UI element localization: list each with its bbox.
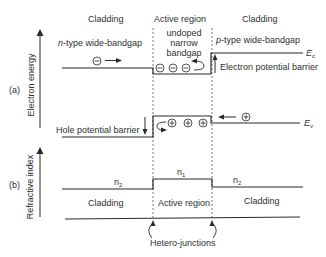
hole-barrier-label: Hole potential barrier: [56, 125, 140, 135]
electron-barrier-label: Electron potential barrier: [220, 62, 318, 72]
ec-label: Ec: [306, 48, 315, 61]
p-type-label: p-type wide-bandgap: [216, 35, 300, 45]
refractive-index-axis: [37, 147, 44, 217]
heterojunction-arrows: [149, 220, 217, 238]
holes-in-well: [157, 119, 207, 133]
hole-barrier-arrow-icon: [143, 117, 148, 135]
region-label-active: Active region: [154, 14, 206, 24]
electron-barrier-arrow-icon: [213, 54, 218, 73]
n1-label: n1: [177, 167, 185, 180]
undoped-narrow-bandgap-label: undoped narrow bandgap: [156, 28, 212, 58]
region-label-left-cladding: Cladding: [88, 14, 124, 24]
panel-a-label: (a): [9, 85, 20, 95]
region-label-right-cladding: Cladding: [242, 14, 278, 24]
heterojunctions-label: Hetero-junctions: [150, 238, 216, 248]
electrons-in-well: [156, 59, 204, 73]
region-label-b-active: Active region: [158, 198, 210, 208]
panel-b-label: (b): [9, 180, 20, 190]
ev-label: Ev: [304, 118, 313, 131]
region-label-b-right-cladding: Cladding: [244, 196, 280, 206]
electron-energy-axis-label: Electron energy: [26, 50, 36, 120]
electron-energy-axis: [37, 29, 44, 128]
n2-left-label: n2: [114, 177, 122, 190]
n-type-label: n-type wide-bandgap: [58, 38, 142, 48]
n2-right-label: n2: [233, 175, 241, 188]
hole-arrow-icon: [218, 113, 250, 121]
electron-arrow-icon: [93, 57, 122, 65]
region-label-b-left-cladding: Cladding: [88, 198, 124, 208]
refractive-index-axis-label: Refractive index: [25, 147, 35, 227]
